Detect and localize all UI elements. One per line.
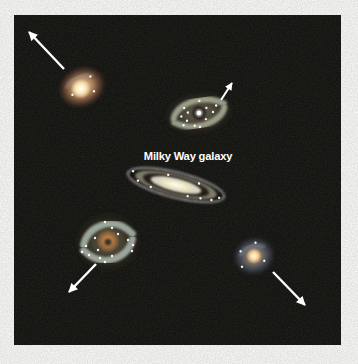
galaxy-bottom-left — [74, 211, 142, 273]
star-dot — [132, 244, 134, 246]
star-dot — [111, 227, 113, 229]
star-dot — [104, 221, 106, 223]
star-dot — [104, 261, 106, 263]
star-dot — [127, 239, 129, 241]
star-dot — [94, 237, 96, 239]
star-dot — [85, 245, 87, 247]
star-dot — [99, 257, 101, 259]
star-dot — [117, 233, 119, 235]
star-dot — [81, 251, 83, 253]
milky-way-label: Milky Way galaxy — [144, 150, 233, 162]
star-dot — [111, 255, 113, 257]
star-dot — [88, 254, 90, 256]
universe-expansion-diagram: Milky Way galaxy — [0, 0, 358, 364]
figure: Milky Way galaxy — [0, 0, 358, 364]
star-dot — [131, 250, 133, 252]
galaxy-center-disk — [105, 239, 112, 246]
star-dot — [97, 249, 99, 251]
